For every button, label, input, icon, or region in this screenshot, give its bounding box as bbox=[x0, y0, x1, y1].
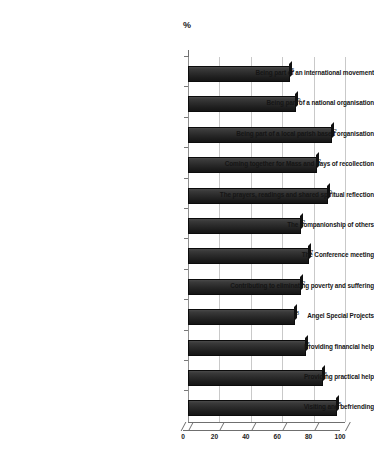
category-label: The companionship of others bbox=[192, 222, 374, 228]
category-label: Coming together for Mass and days of rec… bbox=[192, 161, 374, 167]
category-label: Being part of an international movement bbox=[192, 70, 374, 76]
y-axis-tick bbox=[184, 360, 188, 361]
y-axis-tick bbox=[184, 238, 188, 239]
x-axis-tick-label-60: 60 bbox=[267, 434, 287, 441]
x-axis-line bbox=[188, 422, 345, 423]
x-axis-tick-label-20: 20 bbox=[204, 434, 224, 441]
chart-title: % bbox=[0, 20, 374, 30]
category-label: Being part of a local parish based organ… bbox=[192, 131, 374, 137]
y-axis-tick bbox=[184, 330, 188, 331]
gridline-100 bbox=[345, 57, 346, 422]
category-label: Providing practical help bbox=[192, 374, 374, 380]
category-label: Providing financial help bbox=[192, 344, 374, 350]
category-label: The Conference meeting bbox=[192, 252, 374, 258]
y-axis-tick bbox=[184, 86, 188, 87]
plot-back-wall-top bbox=[188, 50, 345, 57]
bar-chart: % 592292728565 Being part of an internat… bbox=[0, 0, 374, 473]
category-label: Angel Special Projects bbox=[192, 313, 374, 319]
x-axis-tick-label-40: 40 bbox=[236, 434, 256, 441]
x-axis-tick-100 bbox=[345, 422, 351, 431]
plot-area: 592292728565 bbox=[188, 57, 345, 422]
y-axis-tick bbox=[184, 147, 188, 148]
y-axis-tick bbox=[184, 117, 188, 118]
x-axis-tick-label-80: 80 bbox=[299, 434, 319, 441]
category-label: Being part of a national organisation bbox=[192, 100, 374, 106]
y-axis-tick bbox=[184, 299, 188, 300]
category-label: Contributing to eliminating poverty and … bbox=[192, 283, 374, 289]
y-axis-tick bbox=[184, 56, 188, 57]
x-axis-tick-label-0: 0 bbox=[173, 434, 193, 441]
x-axis-tick-label-100: 100 bbox=[330, 434, 350, 441]
y-axis-tick bbox=[184, 178, 188, 179]
category-label: The prayers, readings and shared spiritu… bbox=[192, 192, 374, 198]
category-label: Visiting and befriending bbox=[192, 404, 374, 410]
chart-title-text: % bbox=[183, 20, 191, 30]
x-axis-line-front bbox=[183, 430, 340, 431]
y-axis-tick bbox=[184, 208, 188, 209]
y-axis-tick bbox=[184, 269, 188, 270]
y-axis-tick bbox=[184, 390, 188, 391]
